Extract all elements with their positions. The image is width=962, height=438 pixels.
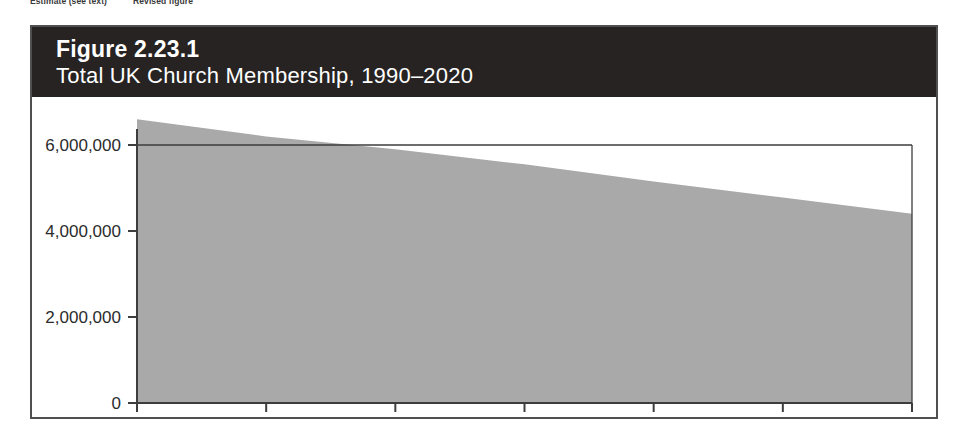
- y-axis-tick-label: 2,000,000: [45, 308, 121, 327]
- footnote-revised: Revised figure: [133, 0, 193, 6]
- y-axis-tick-label: 0: [112, 394, 121, 413]
- figure-title: Total UK Church Membership, 1990–2020: [56, 63, 936, 89]
- footnote-row: Estimate (see text) Revised figure: [30, 0, 193, 8]
- plot-region: 02,000,0004,000,0006,000,000199019952000…: [32, 97, 936, 417]
- area-chart: 02,000,0004,000,0006,000,000199019952000…: [32, 97, 936, 417]
- area-series: [137, 119, 912, 403]
- figure-number: Figure 2.23.1: [56, 36, 936, 63]
- figure-header: Figure 2.23.1 Total UK Church Membership…: [32, 27, 936, 97]
- figure-frame: Figure 2.23.1 Total UK Church Membership…: [30, 25, 938, 419]
- y-axis-tick-label: 6,000,000: [45, 136, 121, 155]
- footnote-estimate: Estimate (see text): [30, 0, 107, 6]
- y-axis-tick-label: 4,000,000: [45, 222, 121, 241]
